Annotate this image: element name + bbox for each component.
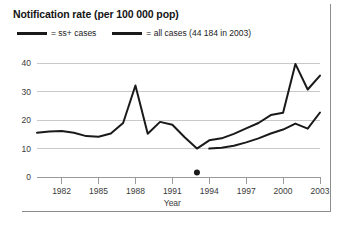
- legend-label-ss-plus-cases: = ss+ cases: [51, 28, 96, 38]
- figure-border-right: [330, 4, 331, 212]
- legend-item-ss-plus-cases: = ss+ cases: [17, 28, 96, 38]
- plot-svg: [37, 52, 320, 177]
- x-axis-title: Year: [152, 198, 192, 208]
- legend-swatch-all-cases: [112, 32, 142, 35]
- x-axis-tick-marks: [62, 177, 320, 184]
- figure-border-bottom: [22, 211, 331, 212]
- x-tick-label-1994: 1994: [192, 186, 226, 196]
- x-tick-label-1991: 1991: [155, 186, 189, 196]
- plot-area: [37, 52, 320, 177]
- y-tick-label-0: 0: [13, 172, 31, 182]
- legend-label-all-cases: = all cases (44 184 in 2003): [146, 28, 251, 38]
- gridlines: [37, 63, 320, 177]
- axis-marker-dot: [194, 169, 200, 175]
- x-tick-label-1982: 1982: [45, 186, 79, 196]
- annotations: [194, 169, 200, 175]
- x-tick-label-1985: 1985: [82, 186, 116, 196]
- y-tick-label-40: 40: [13, 58, 31, 68]
- legend-swatch-ss-plus-cases: [17, 32, 47, 35]
- chart-legend: = ss+ cases = all cases (44 184 in 2003): [17, 26, 251, 40]
- y-tick-label-30: 30: [13, 87, 31, 97]
- series-line-all-cases: [37, 64, 320, 149]
- x-tick-label-1988: 1988: [118, 186, 152, 196]
- x-tick-label-2003: 2003: [303, 186, 337, 196]
- x-tick-label-1997: 1997: [229, 186, 263, 196]
- series-lines: [37, 64, 320, 149]
- y-tick-label-10: 10: [13, 144, 31, 154]
- chart-title: Notification rate (per 100 000 pop): [13, 8, 179, 20]
- x-tick-label-2000: 2000: [266, 186, 300, 196]
- legend-item-all-cases: = all cases (44 184 in 2003): [112, 28, 251, 38]
- chart-figure: Notification rate (per 100 000 pop) = ss…: [0, 0, 351, 228]
- y-tick-label-20: 20: [13, 115, 31, 125]
